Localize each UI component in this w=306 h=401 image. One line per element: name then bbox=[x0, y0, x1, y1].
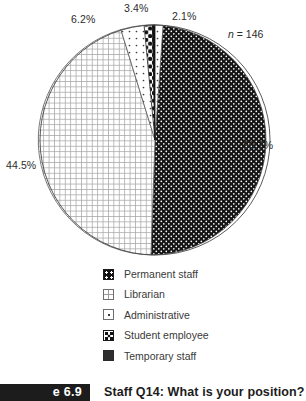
temporary-staff-swatch-icon bbox=[103, 350, 114, 361]
legend-label-student-employee: Student employee bbox=[124, 330, 209, 341]
librarian-swatch-icon bbox=[103, 289, 114, 300]
slice-label-temporary-staff: 2.1% bbox=[172, 11, 196, 22]
legend-label-administrative: Administrative bbox=[124, 310, 190, 321]
slice-label-student-employee: 3.4% bbox=[124, 3, 148, 14]
figure-caption-text: Staff Q14: What is your position? bbox=[104, 384, 305, 401]
legend-item-permanent-staff[interactable]: Permanent staff bbox=[103, 264, 303, 284]
sample-size-symbol: n bbox=[228, 28, 234, 40]
slice-label-librarian: 44.5% bbox=[6, 160, 36, 171]
slice-label-administrative: 6.2% bbox=[71, 14, 95, 25]
sample-size-value: = 146 bbox=[237, 28, 264, 40]
slice-label-permanent-staff: 50.7% bbox=[243, 140, 273, 151]
legend-item-temporary-staff[interactable]: Temporary staff bbox=[103, 346, 303, 366]
student-employee-swatch-icon bbox=[103, 330, 114, 341]
legend-item-administrative[interactable]: Administrative bbox=[103, 305, 303, 325]
legend-item-student-employee[interactable]: Student employee bbox=[103, 325, 303, 345]
administrative-swatch-icon bbox=[103, 309, 114, 320]
permanent-staff-swatch-icon bbox=[103, 269, 114, 280]
sample-size-annotation: n = 146 bbox=[228, 29, 263, 40]
figure-caption: e 6.9 Staff Q14: What is your position? bbox=[0, 384, 306, 401]
chart-legend: Permanent staff Librarian Administrative… bbox=[103, 264, 303, 366]
legend-label-librarian: Librarian bbox=[124, 289, 165, 300]
legend-label-temporary-staff: Temporary staff bbox=[124, 351, 196, 362]
figure-root: 50.7% 44.5% 6.2% 3.4% 2.1% n = 146 Perma… bbox=[0, 0, 306, 401]
pie-chart: 50.7% 44.5% 6.2% 3.4% 2.1% n = 146 bbox=[0, 0, 306, 262]
figure-number-badge: e 6.9 bbox=[0, 384, 90, 401]
legend-item-librarian[interactable]: Librarian bbox=[103, 284, 303, 304]
legend-label-permanent-staff: Permanent staff bbox=[124, 269, 198, 280]
